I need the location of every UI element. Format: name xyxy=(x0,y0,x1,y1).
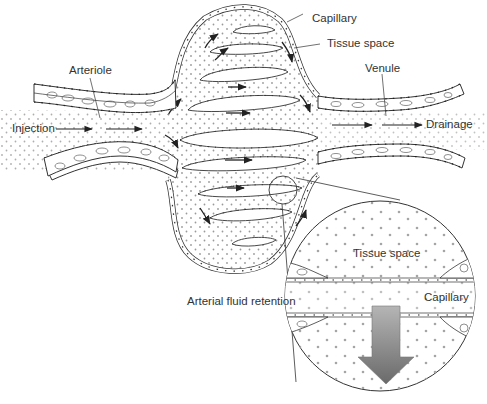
diagram-canvas: Arteriole Injection Capillary Tissue spa… xyxy=(0,0,487,404)
capillary-leader-line xyxy=(287,14,303,22)
label-arteriole: Arteriole xyxy=(69,65,112,77)
label-venule: Venule xyxy=(365,63,400,75)
label-inset-capillary: Capillary xyxy=(424,292,469,304)
label-arterial-fluid-retention: Arterial fluid retention xyxy=(187,296,296,308)
label-drainage: Drainage xyxy=(426,119,473,131)
label-injection: Injection xyxy=(12,123,55,135)
label-capillary-top: Capillary xyxy=(312,13,357,25)
tissue-space-leader-line xyxy=(294,44,320,48)
magnify-line-right xyxy=(296,178,400,200)
label-tissue-space-top: Tissue space xyxy=(327,38,394,50)
diagram-svg xyxy=(0,0,487,404)
capillary-bed-bulb xyxy=(165,7,318,271)
label-inset-tissue-space: Tissue space xyxy=(353,248,420,260)
